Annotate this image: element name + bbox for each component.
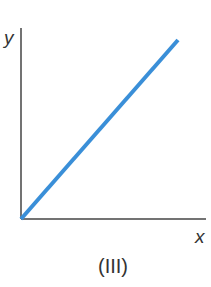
figure-caption: (III) (0, 256, 211, 276)
chart-plot-area (0, 0, 211, 287)
line-chart-figure: y x (III) (0, 0, 211, 287)
data-line (21, 40, 178, 219)
y-axis-label: y (4, 28, 14, 47)
x-axis-label: x (195, 227, 205, 246)
